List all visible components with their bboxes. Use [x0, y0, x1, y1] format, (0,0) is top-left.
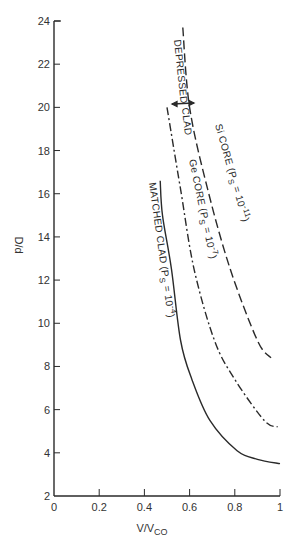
clad-label: CLAD: [180, 107, 194, 136]
x-tick-label: 0.4: [137, 501, 152, 513]
y-tick-label: 20: [38, 101, 50, 113]
y-axis-title: D/d: [13, 236, 25, 253]
x-tick-label: 0: [51, 501, 57, 513]
depressed-label: DEPRESSED: [172, 39, 190, 104]
y-tick-label: 10: [38, 317, 50, 329]
chart: 2468101214161820222400.20.40.60.81 V/VCO…: [0, 0, 299, 543]
matched-clad-label: MATCHED CLAD (PS = 10-4): [144, 181, 179, 318]
x-tick-label: 0.6: [182, 501, 197, 513]
x-axis-title: V/VCO: [136, 522, 167, 537]
y-tick-label: 16: [38, 188, 50, 200]
x-tick-label: 0.8: [227, 501, 242, 513]
y-tick-label: 4: [44, 447, 50, 459]
y-tick-label: 18: [38, 145, 50, 157]
y-tick-label: 8: [44, 360, 50, 372]
y-tick-label: 24: [38, 15, 50, 27]
si-core-label: Si CORE (PS = 10-11): [210, 122, 253, 224]
x-tick-label: 0.2: [92, 501, 107, 513]
matched-clad-curve: [160, 181, 280, 464]
y-tick-label: 12: [38, 274, 50, 286]
y-tick-label: 14: [38, 231, 50, 243]
y-tick-label: 2: [44, 490, 50, 502]
x-tick-label: 1: [277, 501, 283, 513]
y-tick-label: 6: [44, 404, 50, 416]
y-tick-label: 22: [38, 58, 50, 70]
